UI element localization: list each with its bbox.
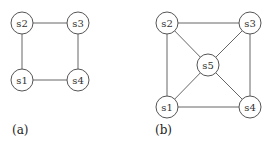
node-label: s1 xyxy=(161,102,173,113)
node-label: s5 xyxy=(202,60,214,71)
panel-a-edges xyxy=(22,23,78,80)
node-s2: s2 xyxy=(156,12,178,34)
panel-a-nodes: s1s2s3s4 xyxy=(11,12,89,91)
node-label: s3 xyxy=(72,18,84,29)
graph-diagrams: s1s2s3s4 s1s2s3s4s5 xyxy=(0,0,267,151)
node-s3: s3 xyxy=(239,12,261,34)
panel-b-caption: (b) xyxy=(155,123,172,137)
node-label: s4 xyxy=(244,102,256,113)
node-s1: s1 xyxy=(11,69,33,91)
node-label: s2 xyxy=(161,18,173,29)
panel-a-caption: (a) xyxy=(12,123,29,137)
node-label: s4 xyxy=(72,75,84,86)
node-label: s2 xyxy=(16,18,28,29)
panel-b-graph: s1s2s3s4s5 xyxy=(156,12,261,118)
panel-a-graph: s1s2s3s4 xyxy=(11,12,89,91)
node-label: s3 xyxy=(244,18,256,29)
node-s3: s3 xyxy=(67,12,89,34)
node-s5: s5 xyxy=(197,54,219,76)
node-s4: s4 xyxy=(239,96,261,118)
node-label: s1 xyxy=(16,75,28,86)
node-s1: s1 xyxy=(156,96,178,118)
panel-b-nodes: s1s2s3s4s5 xyxy=(156,12,261,118)
node-s4: s4 xyxy=(67,69,89,91)
node-s2: s2 xyxy=(11,12,33,34)
